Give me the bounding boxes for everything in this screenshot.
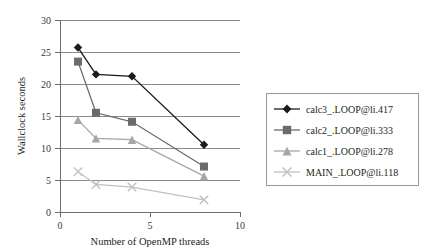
series-line bbox=[78, 48, 204, 145]
y-tick-label-30: 30 bbox=[41, 15, 51, 26]
x-tick-label-5: 5 bbox=[148, 220, 153, 231]
gridlines bbox=[60, 20, 240, 180]
data-point bbox=[74, 167, 82, 175]
y-tick-marks bbox=[55, 20, 60, 212]
legend-label: MAIN_.LOOP@li.118 bbox=[306, 167, 398, 178]
series-1 bbox=[74, 43, 208, 149]
y-tick-label-25: 25 bbox=[41, 47, 51, 58]
x-axis-title: Number of OpenMP threads bbox=[91, 236, 210, 247]
x-tick-marks bbox=[60, 212, 240, 217]
y-tick-label-0: 0 bbox=[46, 207, 51, 218]
y-axis-title: Wallclock seconds bbox=[16, 77, 27, 155]
legend-marker-square-icon bbox=[283, 126, 291, 134]
series-4 bbox=[74, 167, 208, 204]
data-point bbox=[74, 116, 82, 124]
chart-figure: 30 25 20 15 10 5 0 0 5 10 Number of Open… bbox=[0, 0, 428, 252]
y-tick-label-10: 10 bbox=[41, 143, 51, 154]
x-tick-label-0: 0 bbox=[58, 220, 63, 231]
y-tick-label-5: 5 bbox=[46, 175, 51, 186]
y-tick-label-20: 20 bbox=[41, 79, 51, 90]
legend-label: calc2_.LOOP@li.333 bbox=[306, 125, 393, 136]
data-point bbox=[200, 172, 208, 180]
data-point bbox=[92, 109, 100, 117]
data-point bbox=[128, 118, 136, 126]
line-chart-svg: 30 25 20 15 10 5 0 0 5 10 Number of Open… bbox=[0, 0, 428, 252]
y-tick-labels: 30 25 20 15 10 5 0 bbox=[41, 15, 51, 218]
legend-label: calc3_.LOOP@li.417 bbox=[306, 104, 393, 115]
data-point bbox=[92, 70, 100, 78]
data-point bbox=[74, 58, 82, 66]
data-point bbox=[200, 163, 208, 171]
y-tick-label-15: 15 bbox=[41, 111, 51, 122]
x-tick-labels: 0 5 10 bbox=[58, 220, 246, 231]
data-point bbox=[74, 43, 82, 51]
legend-label: calc1_.LOOP@li.278 bbox=[306, 146, 393, 157]
x-tick-label-10: 10 bbox=[235, 220, 245, 231]
